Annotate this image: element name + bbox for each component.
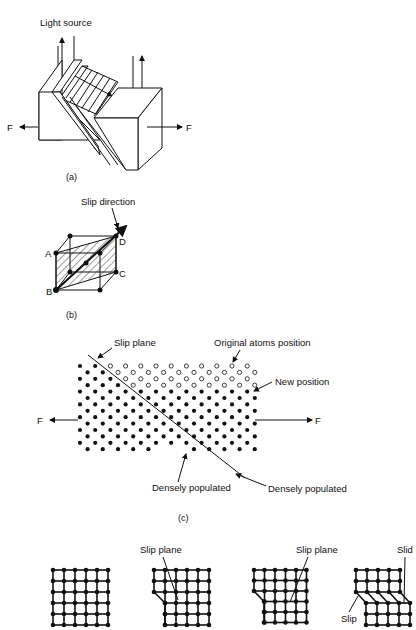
figure-b-unit-cell: Slip direction A B C D (b) <box>45 196 135 320</box>
lattice-undeformed <box>51 568 111 628</box>
atom-lattice <box>78 364 257 451</box>
caption-c: (c) <box>178 513 189 523</box>
diagram-canvas: Light source F F (a) <box>0 0 416 630</box>
vertex-label-a: A <box>45 248 52 259</box>
lattice-slipped <box>354 568 413 628</box>
slip-plane-label-d1: Slip plane <box>140 544 182 555</box>
densely-populated-label-left: Densely populated <box>152 482 231 493</box>
slip-direction-label: Slip direction <box>81 196 135 207</box>
caption-b: (b) <box>66 310 77 320</box>
vertex-label-b: B <box>46 286 52 297</box>
force-label-right-c: F <box>315 415 321 426</box>
lattice-slip-stage-1 <box>152 568 212 628</box>
densely-populated-label-right: Densely populated <box>268 483 347 494</box>
slid-label: Slid <box>397 544 413 555</box>
slip-label: Slip <box>341 613 357 624</box>
new-position-label: New position <box>275 376 329 387</box>
vertex-label-c: C <box>119 268 126 279</box>
original-atoms-label: Original atoms position <box>214 337 311 348</box>
force-label-left-c: F <box>37 415 43 426</box>
slip-plane-label-c: Slip plane <box>114 337 156 348</box>
slip-plane-label-d2: Slip plane <box>296 544 338 555</box>
figure-d-lattice-sequence: Slip plane Slip plane Slid Slip <box>51 544 413 627</box>
figure-c-atomic-slip: Slip plane Original atoms position New p… <box>37 337 347 523</box>
light-source-label: Light source <box>40 17 92 28</box>
vertex-label-d: D <box>119 236 126 247</box>
figure-a-crystal-block: Light source F F (a) <box>7 17 192 182</box>
force-label-left-a: F <box>7 122 13 133</box>
force-label-right-a: F <box>186 122 192 133</box>
caption-a: (a) <box>66 172 77 182</box>
